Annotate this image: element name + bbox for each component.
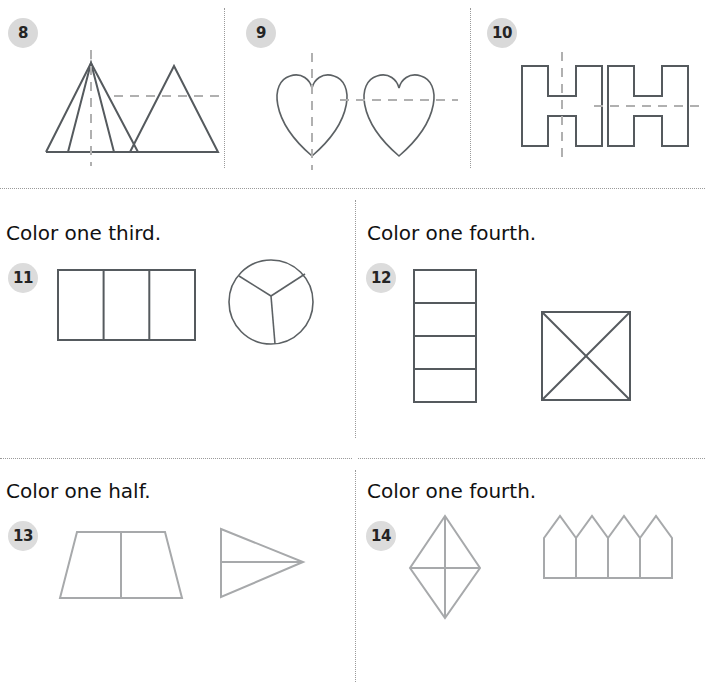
divider-horizontal-after-row2-right [358, 458, 705, 459]
prompt-item-12: Color one fourth. [367, 222, 536, 244]
figure-hearts-symmetry [262, 48, 457, 173]
fence-picket-1 [544, 516, 576, 578]
circle-thirds-radius-2 [271, 274, 305, 296]
item-number-badge-14: 14 [366, 521, 396, 551]
triangle-right-shape [130, 66, 218, 152]
circle-thirds-radius-3 [271, 296, 275, 344]
circle-thirds-radius-1 [239, 276, 271, 296]
divider-vertical-row1-a [224, 8, 225, 168]
divider-horizontal-after-row2-left [0, 458, 352, 459]
prompt-item-14: Color one fourth. [367, 480, 536, 502]
fence-picket-2 [576, 516, 608, 578]
item-number-badge-12: 12 [366, 263, 396, 293]
item-number-badge-11: 11 [8, 263, 38, 293]
fence-picket-3 [608, 516, 640, 578]
item-number-badge-10: 10 [487, 18, 517, 48]
prompt-item-13: Color one half. [6, 480, 151, 502]
item-number-badge-8: 8 [8, 18, 38, 48]
figure-rectangle-fourths [412, 268, 487, 408]
figure-square-diagonals [540, 310, 635, 405]
figure-trapezoid-half [55, 518, 190, 613]
figure-circle-thirds [226, 256, 321, 351]
rectangle-thirds-outline [58, 270, 195, 340]
figure-fence-fourths [540, 508, 675, 593]
divider-horizontal-after-row1 [0, 188, 705, 189]
item-number-badge-9: 9 [246, 18, 276, 48]
figure-h-letters-symmetry [508, 48, 698, 168]
heart-right-outline [364, 75, 434, 156]
divider-vertical-row3 [355, 470, 356, 682]
item-number-badge-13: 13 [8, 521, 38, 551]
figure-rectangle-thirds [56, 266, 201, 346]
worksheet-page: 8 9 10 Col [0, 0, 705, 682]
figure-triangle-half [215, 515, 310, 610]
prompt-item-11: Color one third. [6, 222, 161, 244]
fence-picket-4 [640, 516, 672, 578]
figure-rhombus-fourths [402, 508, 492, 623]
figure-triangles-symmetry [22, 48, 212, 168]
divider-vertical-row1-b [470, 8, 471, 168]
divider-vertical-row2 [355, 200, 356, 438]
